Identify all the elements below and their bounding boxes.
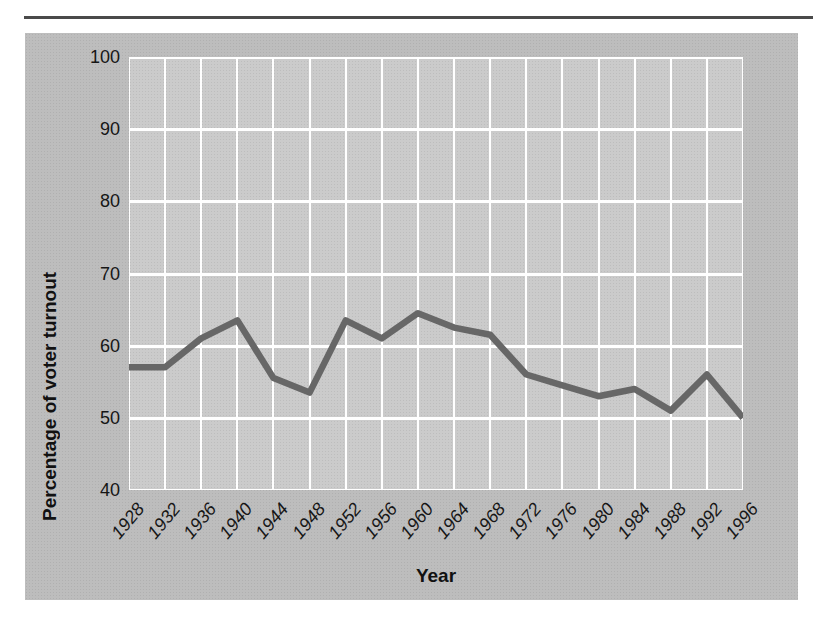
turnout-line-chart xyxy=(129,57,743,490)
x-tick-label: 1944 xyxy=(252,499,294,543)
x-tick-label: 1940 xyxy=(216,499,258,543)
y-tick-label: 60 xyxy=(25,335,120,357)
y-tick-label: 90 xyxy=(25,118,120,140)
plot-area xyxy=(129,57,743,490)
y-axis-title: Percentage of voter turnout xyxy=(39,88,61,521)
x-tick-label: 1964 xyxy=(432,499,474,543)
x-tick-label: 1976 xyxy=(541,499,583,543)
x-tick-label: 1992 xyxy=(685,499,727,543)
x-tick-label: 1952 xyxy=(324,499,366,543)
chart-figure: Percentage of voter turnout Year 1009080… xyxy=(25,33,798,600)
turnout-line-series xyxy=(129,313,743,418)
y-tick-label: 40 xyxy=(25,479,120,501)
x-tick-label: 1996 xyxy=(721,499,763,543)
x-tick-label: 1956 xyxy=(360,499,402,543)
x-tick-label: 1972 xyxy=(505,499,547,543)
x-axis-title: Year xyxy=(129,565,743,587)
x-tick-label: 1932 xyxy=(143,499,185,543)
x-tick-label: 1960 xyxy=(396,499,438,543)
x-tick-label: 1984 xyxy=(613,499,655,543)
y-tick-label: 70 xyxy=(25,263,120,285)
x-tick-label: 1988 xyxy=(649,499,691,543)
x-tick-label: 1980 xyxy=(577,499,619,543)
y-tick-label: 80 xyxy=(25,190,120,212)
x-tick-label: 1928 xyxy=(107,499,149,543)
x-tick-label: 1936 xyxy=(179,499,221,543)
x-tick-label: 1948 xyxy=(288,499,330,543)
x-tick-label: 1968 xyxy=(468,499,510,543)
page: Percentage of voter turnout Year 1009080… xyxy=(0,0,817,617)
top-rule xyxy=(24,16,813,19)
y-tick-label: 50 xyxy=(25,407,120,429)
y-tick-label: 100 xyxy=(25,46,120,68)
